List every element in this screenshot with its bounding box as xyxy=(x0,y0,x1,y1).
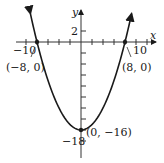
y-tick-label-neg18: −18 xyxy=(62,135,85,148)
point-vertex xyxy=(79,128,83,132)
point-label-left: (−8, 0) xyxy=(6,61,45,74)
point-left-intercept xyxy=(35,40,39,44)
point-label-right: (8, 0) xyxy=(122,61,152,74)
point-label-vertex: (0, −16) xyxy=(86,126,132,139)
point-right-intercept xyxy=(123,40,127,44)
y-tick-label-2: 2 xyxy=(71,25,78,38)
x-tick-label-neg10: −10 xyxy=(13,44,36,57)
leader-line-right xyxy=(127,47,131,57)
parabola-graph: x y −10 10 2 −18 (−8, 0) (8, 0) (0, −16) xyxy=(0,0,164,163)
x-axis-label: x xyxy=(150,29,157,42)
x-tick-label-10: 10 xyxy=(133,44,147,57)
y-axis-label: y xyxy=(71,6,79,19)
